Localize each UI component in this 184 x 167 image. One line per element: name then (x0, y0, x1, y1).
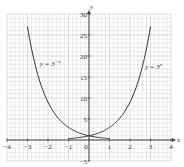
y-tick-label: 5 (84, 116, 88, 124)
x-tick-label: −4 (3, 143, 11, 151)
label-3-pow-x: y = 3x (144, 62, 163, 71)
x-tick-label: −3 (24, 143, 32, 151)
y-axis-label: y (89, 3, 94, 11)
y-tick-label: 30 (80, 11, 88, 19)
y-tick-label: 25 (80, 32, 88, 40)
y-tick-label: −5 (80, 158, 88, 166)
x-tick-label: 0 (84, 143, 88, 151)
y-tick-label: 15 (80, 74, 88, 82)
x-tick-label: 2 (128, 143, 132, 151)
y-tick-label: 10 (80, 95, 88, 103)
x-tick-label: −1 (65, 143, 73, 151)
x-tick-label: −2 (44, 143, 52, 151)
x-axis-arrow-icon (172, 138, 176, 142)
exponent: −x (55, 59, 61, 64)
x-axis-label: x (176, 136, 181, 144)
x-tick-label: 1 (108, 143, 112, 151)
label-3-pow-neg-x: y = 3−x (39, 59, 61, 68)
exponential-chart: xy −4−3−2−101234−551015202530 y = 3−xy =… (0, 0, 184, 167)
x-tick-label: 4 (169, 143, 173, 151)
x-tick-label: 3 (149, 143, 153, 151)
y-tick-label: 20 (80, 53, 88, 61)
